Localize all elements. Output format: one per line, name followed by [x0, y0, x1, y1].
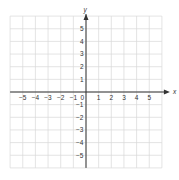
- y-tick-label: 1: [80, 76, 84, 83]
- x-tick-label: 3: [122, 94, 126, 101]
- x-tick-label: −4: [32, 94, 40, 101]
- x-tick-label: 2: [109, 94, 113, 101]
- y-axis-name: y: [82, 6, 87, 14]
- x-axis-name: x: [172, 88, 177, 95]
- y-tick-label: 3: [80, 50, 84, 57]
- x-tick-label: 5: [147, 94, 151, 101]
- y-axis-arrow-icon: [84, 14, 89, 20]
- y-tick-label: −5: [76, 152, 84, 159]
- y-tick-label: −2: [76, 114, 84, 121]
- x-tick-label: −2: [57, 94, 65, 101]
- x-tick-label: 4: [135, 94, 139, 101]
- x-tick-label: −3: [44, 94, 52, 101]
- y-tick-label: 4: [80, 38, 84, 45]
- y-tick-label: 2: [80, 63, 84, 70]
- y-tick-label: 5: [80, 25, 84, 32]
- y-tick-label: −4: [76, 139, 84, 146]
- y-tick-label: −1: [76, 101, 84, 108]
- axes: [10, 14, 170, 168]
- x-tick-label: −5: [19, 94, 27, 101]
- x-tick-label: 1: [97, 94, 101, 101]
- x-axis-arrow-icon: [164, 90, 170, 95]
- coordinate-plane: −5−4−3−2−112345054321−1−2−3−4−5xy: [0, 0, 179, 180]
- origin-label: 0: [80, 94, 84, 101]
- y-tick-label: −3: [76, 126, 84, 133]
- x-tick-label: −1: [70, 94, 78, 101]
